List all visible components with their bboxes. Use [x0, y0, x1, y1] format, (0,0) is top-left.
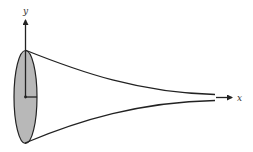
- upper-profile-curve: [25, 50, 215, 95]
- x-axis-label: x: [237, 93, 242, 103]
- y-axis-label: y: [22, 6, 29, 16]
- lower-profile-curve: [25, 101, 215, 144]
- center-point: [24, 96, 27, 99]
- solid-of-revolution-diagram: y x: [0, 0, 253, 152]
